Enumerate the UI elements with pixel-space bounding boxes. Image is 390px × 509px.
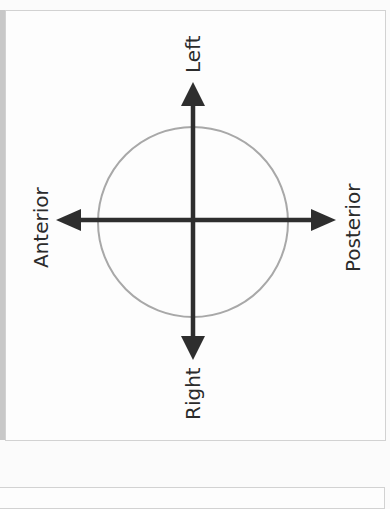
label-left: Anterior [29,186,53,268]
label-top: Left [181,35,205,73]
arrow-left-icon [56,209,81,231]
arrow-down-icon [181,336,205,360]
arrow-right-icon [311,209,336,231]
label-bottom: Right [181,367,205,420]
label-right: Posterior [341,183,365,272]
arrow-up-icon [181,82,205,106]
